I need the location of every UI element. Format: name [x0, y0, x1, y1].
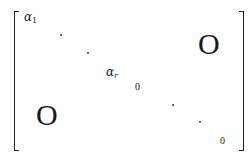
diagonal-zero-1: 0: [135, 82, 140, 92]
diagonal-dot-1: [60, 34, 62, 36]
diagonal-dot-2: [87, 52, 89, 54]
block-diagonal-matrix: α1 αr 0 0 O O: [0, 0, 251, 156]
alpha-subscript: r: [114, 71, 118, 80]
alpha-symbol: α: [24, 10, 32, 24]
alpha-r-entry: αr: [106, 66, 118, 80]
right-bracket: [239, 11, 244, 151]
diagonal-dot-3: [172, 104, 174, 106]
alpha-subscript: 1: [32, 16, 37, 25]
alpha-1-entry: α1: [24, 11, 37, 25]
diagonal-dot-4: [199, 121, 201, 123]
diagonal-zero-2: 0: [220, 136, 225, 146]
left-bracket: [14, 11, 19, 151]
zero-block-top-right: O: [198, 29, 220, 59]
zero-block-bottom-left: O: [36, 100, 58, 130]
alpha-symbol: α: [106, 65, 114, 79]
